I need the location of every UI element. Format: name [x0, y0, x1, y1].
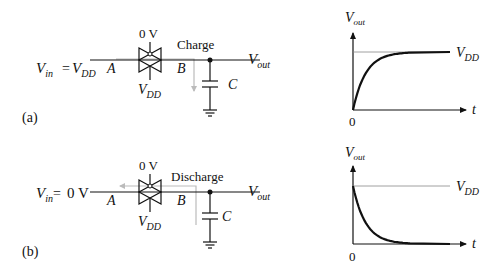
- vin-value-a: VDD: [72, 60, 96, 79]
- action-label-a: Charge: [177, 37, 215, 52]
- cap-label-b: C: [222, 209, 232, 224]
- node-b-label-a: B: [177, 61, 186, 76]
- graph-b: Vout t 0 VDD: [345, 145, 480, 264]
- node-b-label-b: B: [177, 193, 186, 208]
- panel-a: Vin = VDD 0 V VDD A B Charge: [22, 10, 480, 129]
- ground-icon-b: [203, 242, 217, 248]
- y-label-a: Vout: [345, 10, 366, 27]
- gate-top-label-a: 0 V: [139, 26, 159, 41]
- ground-icon-a: [203, 110, 217, 116]
- graph-a: Vout t 0 VDD: [345, 10, 480, 129]
- cap-label-a: C: [228, 77, 238, 92]
- vin-label-b: Vin: [36, 185, 53, 204]
- y-label-b: Vout: [345, 145, 366, 162]
- transmission-gate-a: [139, 42, 161, 80]
- vin-value-b: 0 V: [67, 185, 89, 201]
- gate-top-label-b: 0 V: [139, 158, 159, 173]
- origin-label-a: 0: [349, 114, 356, 129]
- charge-curve: [353, 52, 450, 110]
- vout-label-a: Vout: [248, 51, 270, 70]
- panel-label-b: (b): [22, 244, 39, 260]
- action-label-b: Discharge: [171, 169, 224, 184]
- x-label-b: t: [472, 236, 477, 251]
- capacitor-b: [202, 192, 218, 242]
- discharge-curve: [353, 186, 450, 244]
- x-label-a: t: [472, 102, 477, 117]
- vin-eq-b: =: [53, 186, 61, 201]
- node-a-label-a: A: [106, 61, 116, 76]
- panel-label-a: (a): [22, 110, 38, 126]
- node-a-label-b: A: [106, 193, 116, 208]
- vin-eq-a: =: [62, 61, 70, 76]
- panel-b: Vin = 0 V 0 V VDD A B Discharge: [22, 145, 480, 264]
- vin-label-a: Vin: [36, 60, 53, 79]
- level-label-a: VDD: [456, 45, 480, 63]
- transmission-gate-b: [139, 174, 161, 212]
- level-label-b: VDD: [456, 179, 480, 197]
- vout-label-b: Vout: [248, 183, 270, 202]
- gate-bottom-label-a: VDD: [138, 82, 162, 100]
- gate-bottom-label-b: VDD: [138, 214, 162, 232]
- transmission-gate-figure: Vin = VDD 0 V VDD A B Charge: [0, 0, 503, 270]
- origin-label-b: 0: [349, 249, 356, 264]
- capacitor-a: [202, 60, 218, 110]
